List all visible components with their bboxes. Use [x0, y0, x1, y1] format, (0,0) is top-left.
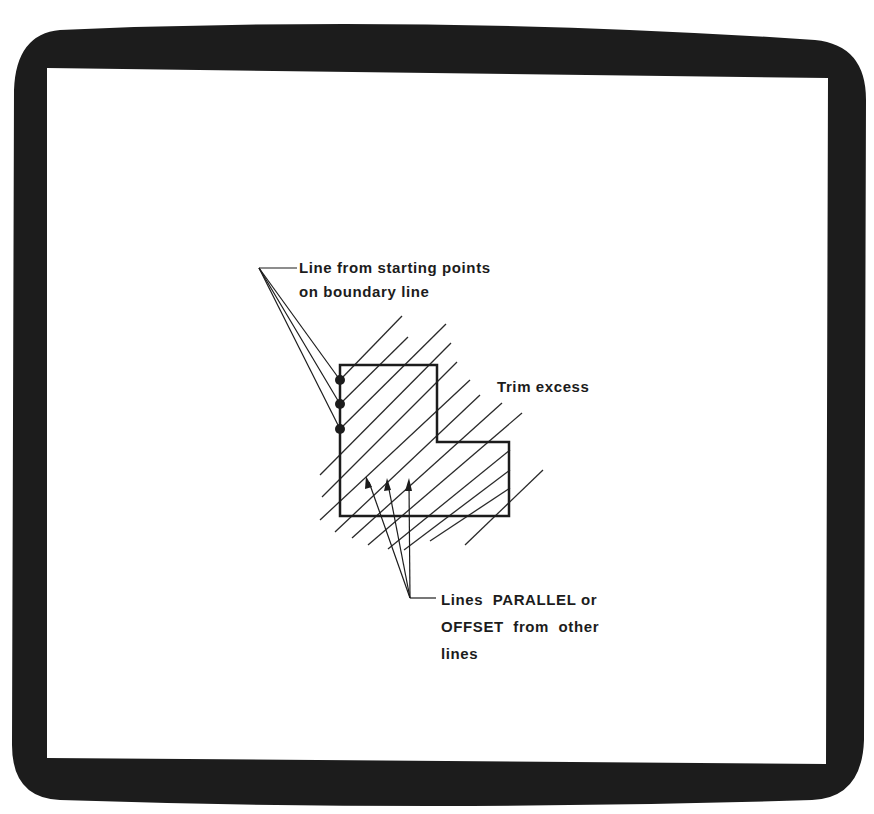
starting-points-label-line2: on boundary line [299, 280, 491, 304]
parallel-lines-label: Lines PARALLEL or OFFSET from other line… [441, 586, 599, 667]
parallel-label-line1: Lines PARALLEL or [441, 586, 599, 613]
crosshatch-diagram [0, 0, 874, 814]
parallel-label-line2: OFFSET from other [441, 613, 599, 640]
parallel-lines-leader [369, 482, 436, 598]
boundary-outline [340, 365, 509, 516]
arrowhead-icon [365, 476, 372, 489]
arrowhead-icons [365, 476, 412, 491]
starting-points-label: Line from starting points on boundary li… [299, 256, 491, 304]
trim-excess-label: Trim excess [497, 375, 590, 399]
starting-points-label-line1: Line from starting points [299, 256, 491, 280]
monitor-frame [12, 24, 866, 806]
diagram-canvas: Line from starting points on boundary li… [0, 0, 874, 814]
parallel-label-line3: lines [441, 640, 599, 667]
